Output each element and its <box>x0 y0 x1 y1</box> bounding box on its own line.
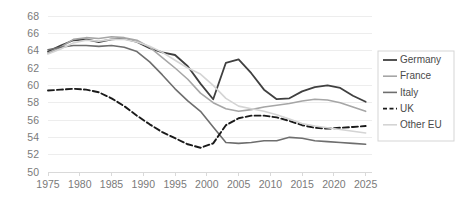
y-axis-tick-label: 56 <box>27 114 39 126</box>
line-chart: 68666462605856545250 1975198019851990199… <box>0 0 459 197</box>
x-axis-tick-label: 2025 <box>354 178 378 190</box>
y-axis-tick-label: 66 <box>27 27 39 39</box>
x-axis-tick-label: 2010 <box>259 178 283 190</box>
x-axis-tick-label: 1975 <box>36 178 60 190</box>
x-axis-tick-label: 2020 <box>322 178 346 190</box>
chart-canvas: 68666462605856545250 1975198019851990199… <box>0 0 459 197</box>
x-axis-tick-label: 2015 <box>290 178 314 190</box>
y-axis-tick-label: 58 <box>27 96 39 108</box>
x-axis-tick-label: 1990 <box>132 178 156 190</box>
legend-label-other-eu: Other EU <box>400 119 442 130</box>
x-axis-tick-label: 1980 <box>68 178 92 190</box>
x-axis-tick-label: 2005 <box>227 178 251 190</box>
y-axis-tick-label: 50 <box>27 166 39 178</box>
data-series-group <box>48 37 366 148</box>
y-axis-tick-label: 62 <box>27 62 39 74</box>
legend-label-germany: Germany <box>400 54 441 65</box>
y-axis-tick-label: 54 <box>27 131 39 143</box>
x-axis-tick-label: 2000 <box>195 178 219 190</box>
legend-label-uk: UK <box>400 103 414 114</box>
x-axis-tick-label: 1985 <box>100 178 124 190</box>
legend-label-italy: Italy <box>400 87 418 98</box>
x-axis-tick-label: 1995 <box>163 178 187 190</box>
y-axis-tick-labels: 68666462605856545250 <box>27 10 39 178</box>
chart-legend: GermanyFranceItalyUKOther EU <box>378 51 454 141</box>
legend-label-france: France <box>400 70 432 81</box>
series-line-france <box>48 37 366 112</box>
y-axis-tick-label: 68 <box>27 10 39 22</box>
y-axis-tick-label: 52 <box>27 148 39 160</box>
x-axis-tickmarks <box>48 172 366 176</box>
series-line-italy <box>48 45 366 144</box>
y-axis-tick-label: 64 <box>27 44 39 56</box>
x-axis-tick-labels: 1975198019851990199520002005201020152020… <box>36 178 377 190</box>
y-axis-tick-label: 60 <box>27 79 39 91</box>
